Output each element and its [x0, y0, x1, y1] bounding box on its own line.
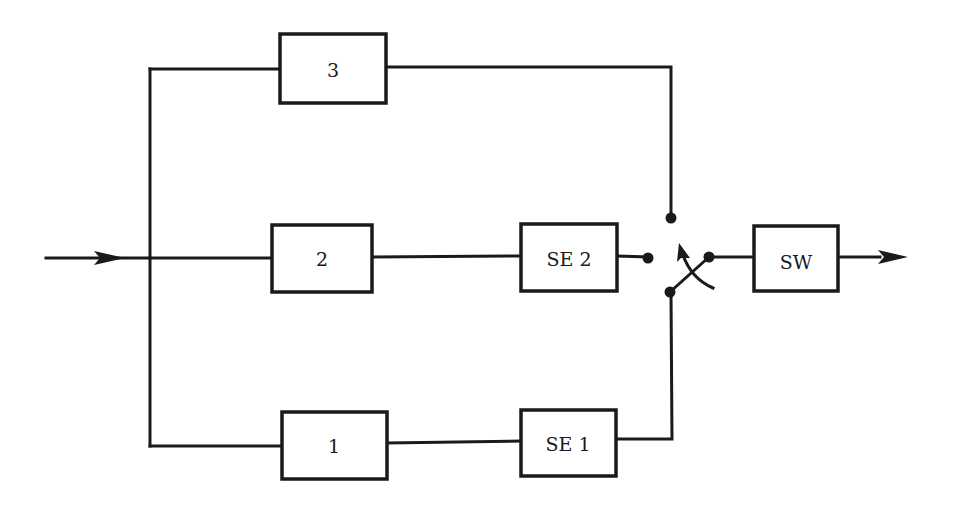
block-3: 3 [280, 34, 386, 103]
wire-block-2-to-se2 [372, 256, 521, 257]
block-sw-label: SW [780, 251, 813, 273]
block-sw: SW [754, 226, 838, 291]
output-arrow-icon [878, 250, 908, 264]
block-3-label: 3 [327, 59, 339, 81]
block-2-label: 2 [316, 248, 328, 270]
switch-contact-left [643, 253, 654, 264]
block-1: 1 [282, 412, 387, 479]
switch-lever [670, 257, 709, 292]
block-2: 2 [272, 225, 372, 292]
wire-block-1-to-se1 [387, 441, 521, 443]
block-se1-label: SE 1 [545, 433, 590, 455]
block-se2: SE 2 [521, 224, 617, 291]
redundancy-block-diagram: 3 2 1 SE 2 SE 1 SW [0, 0, 954, 515]
block-se1: SE 1 [521, 410, 616, 476]
switch-contact-top [666, 213, 677, 224]
wire-block-3-to-switch [386, 67, 671, 218]
block-1-label: 1 [328, 435, 340, 457]
block-se2-label: SE 2 [546, 248, 591, 270]
wire-se1-to-switch [616, 292, 672, 439]
